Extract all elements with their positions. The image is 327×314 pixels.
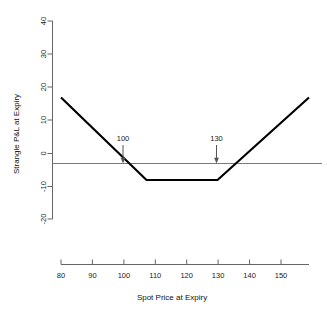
x-tick-label-130: 130	[212, 271, 225, 280]
x-axis-title: Spot Price at Expiry	[137, 293, 207, 302]
annotation-breakeven-right: 130	[210, 134, 223, 164]
y-tick-label-0: 0	[39, 151, 48, 155]
y-tick-label-40: 40	[39, 17, 48, 25]
y-axis-title: Strangle P&L at Expiry	[12, 94, 21, 174]
x-tick-label-120: 120	[180, 271, 193, 280]
y-tick-label-30: 30	[39, 50, 48, 58]
x-tick-label-90: 90	[88, 271, 96, 280]
annotation-label-130: 130	[210, 134, 223, 143]
strangle-pnl-chart: 40 30 20 10 0 -10 -20 Strangle P&L at Ex…	[0, 0, 327, 314]
x-tick-label-140: 140	[243, 271, 256, 280]
annotation-label-100: 100	[117, 134, 130, 143]
chart-canvas: 40 30 20 10 0 -10 -20 Strangle P&L at Ex…	[0, 0, 327, 314]
x-tick-label-80: 80	[57, 271, 65, 280]
payoff-line-series	[61, 98, 309, 181]
x-tick-label-100: 100	[118, 271, 131, 280]
x-axis: 80 90 100 110 120 130 140 150 Spot Price…	[57, 260, 309, 303]
annotation-breakeven-left: 100	[117, 134, 130, 164]
y-tick-label-10: 10	[39, 116, 48, 124]
annotation-arrow-head-right	[214, 158, 219, 164]
annotation-arrow-head-left	[121, 158, 126, 164]
x-tick-label-150: 150	[275, 271, 288, 280]
y-axis: 40 30 20 10 0 -10 -20 Strangle P&L at Ex…	[12, 17, 53, 225]
y-tick-label-neg10: -10	[39, 181, 48, 192]
y-tick-label-neg20: -20	[39, 214, 48, 225]
y-tick-label-20: 20	[39, 83, 48, 91]
x-tick-label-110: 110	[149, 271, 161, 280]
